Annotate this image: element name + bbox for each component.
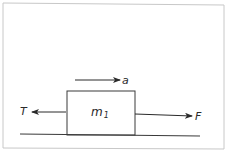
diagram-canvas: m1 a T F <box>0 0 228 152</box>
block-label-subscript: 1 <box>104 111 109 120</box>
frame-border <box>3 3 224 149</box>
acceleration-label: a <box>122 74 129 87</box>
force-label: F <box>195 110 202 123</box>
block-label-main: m <box>91 105 103 119</box>
